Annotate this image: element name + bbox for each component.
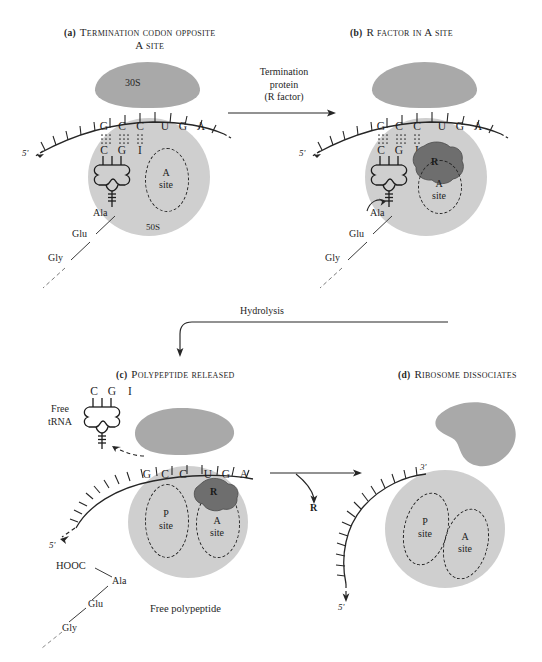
codon-base: C [177, 468, 189, 480]
arrow-c-to-d-label: R [310, 502, 317, 513]
panel-a-50s-label: 50S [146, 222, 160, 232]
panel-b-codon-bases: G C C U G A [375, 120, 484, 132]
codon-base: C [159, 468, 171, 480]
a-site-line2: site [145, 179, 187, 191]
panel-d-label: (d) [398, 370, 410, 380]
panel-a-peptide-chain [40, 212, 130, 278]
panel-c-label: (c) [116, 370, 127, 380]
codon-base: C [393, 120, 405, 132]
codon-base: G [141, 468, 153, 480]
panel-c-five-prime-label: 5' [49, 540, 55, 550]
stop-codon-base: A [195, 120, 207, 132]
panel-c-caption: (c)Polypeptide released [116, 368, 235, 380]
panel-a-30s-subunit [95, 62, 200, 108]
panel-b-residue-glu: Glu [349, 228, 364, 239]
a-site-line1: A [418, 178, 460, 190]
panel-c-title-line1: Polypeptide released [131, 368, 234, 380]
p-site-line1: P [404, 516, 446, 528]
panel-b-residue-ala: Ala [370, 207, 384, 218]
stop-codon-base: G [177, 120, 189, 132]
codon-base: C [116, 120, 128, 132]
panel-b-residue-gly: Gly [325, 252, 340, 263]
panel-c-free-trna-label: Free tRNA [40, 402, 80, 428]
a-site-line2: site [196, 527, 238, 539]
a-site-line1: A [145, 167, 187, 179]
a-site-line1: A [444, 531, 486, 543]
panel-c-r-factor-label: R [210, 486, 217, 497]
panel-b-caption: (b)R factor in A site [350, 26, 453, 38]
panel-b-a-site-label: A site [418, 178, 460, 201]
a-site-line2: site [444, 543, 486, 555]
arrow-label-line2: protein [232, 79, 336, 92]
p-site-line2: site [145, 520, 187, 532]
free-trna-base: G [106, 385, 118, 397]
arrow-label-line1: Termination [232, 66, 336, 79]
codon-base: G [98, 120, 110, 132]
codon-base: C [411, 120, 423, 132]
panel-a-a-site-label: A site [145, 167, 187, 190]
panel-b-30s-subunit [372, 62, 477, 108]
panel-a-codon-bases: G C C U G A [98, 120, 207, 132]
free-trna-line2: tRNA [40, 415, 80, 428]
stop-codon-base: U [159, 120, 171, 132]
free-trna-base: I [124, 385, 136, 397]
panel-c-r-factor [190, 476, 242, 518]
panel-c-polypeptide-caption: Free polypeptide [150, 603, 221, 614]
p-site-line2: site [404, 528, 446, 540]
p-site-line1: P [145, 508, 187, 520]
codon-base: G [375, 120, 387, 132]
panel-d-a-site-label: A site [444, 531, 486, 554]
panel-a-label: (a) [64, 28, 76, 38]
panel-a-30s-label: 30S [125, 77, 141, 88]
free-trna-base: C [88, 385, 100, 397]
arrow-label-line3: (R factor) [232, 91, 336, 104]
panel-c-residue-ala: Ala [112, 575, 126, 586]
panel-a-residue-ala: Ala [93, 207, 107, 218]
stop-codon-base: A [472, 120, 484, 132]
panel-a-title-line2: A site [64, 39, 215, 51]
panel-c-residue-gly: Gly [62, 622, 77, 633]
free-trna-line1: Free [40, 402, 80, 415]
stop-codon-base: G [454, 120, 466, 132]
panel-b-title-line1: R factor in A site [366, 26, 453, 38]
panel-d-p-site-label: P site [404, 516, 446, 539]
panel-c-a-site-label: A site [196, 515, 238, 538]
a-site-line2: site [418, 190, 460, 202]
panel-b-label: (b) [350, 28, 362, 38]
panel-d-five-prime-label: 5' [338, 602, 344, 612]
codon-base: C [134, 120, 146, 132]
stop-codon-base: U [436, 120, 448, 132]
panel-a-title-line1: Termination codon opposite [80, 26, 216, 38]
panel-b-peptide-chain [317, 212, 407, 278]
panel-a-five-prime-label: 5' [22, 148, 28, 158]
panel-d-three-prime-label: 3' [420, 462, 426, 472]
panel-a-residue-glu: Glu [72, 228, 87, 239]
figure-canvas: (a)Termination codon opposite A site 30S… [0, 0, 542, 662]
panel-b-five-prime-label: 5' [299, 148, 305, 158]
arrow-a-to-b-label: Termination protein (R factor) [232, 66, 336, 104]
panel-a-residue-gly: Gly [48, 252, 63, 263]
arrow-b-to-c [160, 300, 460, 362]
panel-a-caption: (a)Termination codon opposite A site [64, 26, 215, 51]
panel-c-p-site-label: P site [145, 508, 187, 531]
panel-d-title-line1: Ribosome dissociates [414, 368, 516, 380]
panel-d-caption: (d)Ribosome dissociates [398, 368, 517, 380]
panel-c-residue-glu: Glu [88, 598, 103, 609]
panel-c-free-trna-bases: C G I [88, 385, 136, 397]
a-site-line1: A [196, 515, 238, 527]
